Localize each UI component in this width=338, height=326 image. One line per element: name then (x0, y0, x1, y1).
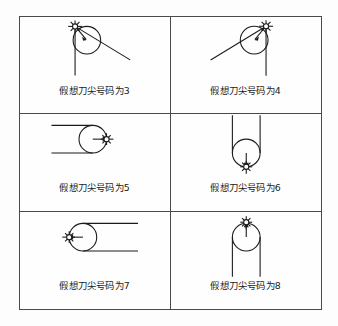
tool-nose-diagram-3 (20, 18, 170, 84)
tool-nose-label-8: 假想刀尖号码为8 (210, 281, 281, 290)
tool-nose-grid: 假想刀尖号码为3 (19, 16, 322, 310)
tool-nose-cell-6: 假想刀尖号码为6 (171, 114, 322, 211)
tool-nose-cell-8: 假想刀尖号码为8 (171, 212, 322, 309)
diagram-svg-7 (20, 213, 170, 279)
nose-radius-circle (73, 26, 101, 54)
edge-line-diagonal (75, 26, 130, 59)
tool-nose-number-figure: 假想刀尖号码为3 (0, 0, 338, 326)
tool-nose-diagram-5 (20, 115, 170, 181)
marker-dot (104, 137, 109, 142)
tool-nose-cell-3: 假想刀尖号码为3 (20, 17, 171, 114)
marker-dot (73, 24, 78, 29)
nose-radius-circle (240, 26, 268, 54)
diagram-svg-8 (171, 213, 322, 279)
tool-nose-marker-5 (101, 134, 114, 146)
edge-line-diagonal (210, 26, 265, 60)
tool-nose-cell-4: 假想刀尖号码为4 (171, 17, 322, 114)
marker-dot (67, 234, 72, 239)
tool-nose-label-3: 假想刀尖号码为3 (59, 86, 130, 95)
tool-nose-diagram-4 (171, 18, 322, 84)
tool-nose-diagram-7 (20, 213, 170, 279)
tool-nose-marker-7 (62, 231, 75, 243)
tool-nose-diagram-8 (171, 213, 322, 279)
marker-dot (243, 165, 248, 170)
tool-nose-cell-7: 假想刀尖号码为7 (20, 212, 171, 309)
marker-dot (263, 24, 268, 29)
tool-nose-cell-5: 假想刀尖号码为5 (20, 114, 171, 211)
tool-nose-label-4: 假想刀尖号码为4 (210, 86, 281, 95)
tool-nose-marker-8 (240, 216, 252, 229)
marker-dot (243, 219, 248, 224)
diagram-svg-6 (171, 115, 322, 181)
tool-nose-label-5: 假想刀尖号码为5 (59, 183, 130, 192)
tool-nose-label-7: 假想刀尖号码为7 (59, 281, 130, 290)
diagram-svg-5 (20, 115, 170, 181)
diagram-svg-3 (20, 18, 170, 84)
tool-nose-diagram-6 (171, 115, 322, 181)
diagram-svg-4 (171, 18, 322, 84)
tool-nose-marker-6 (240, 161, 252, 174)
tool-nose-label-6: 假想刀尖号码为6 (210, 183, 281, 192)
